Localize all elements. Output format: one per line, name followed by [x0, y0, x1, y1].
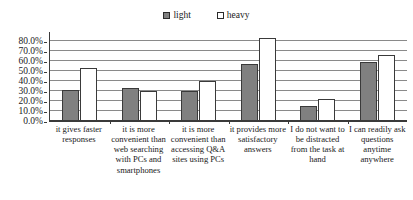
bar-light	[181, 91, 198, 121]
legend-item-light: light	[163, 11, 190, 21]
y-axis-tick	[44, 102, 47, 103]
bar-group	[50, 32, 110, 121]
y-axis-tick-label: 30.0%	[18, 87, 43, 97]
bar-light	[62, 90, 79, 122]
plot-area	[49, 32, 407, 122]
legend-label-heavy: heavy	[227, 11, 250, 21]
y-axis-tick	[44, 92, 47, 93]
bar-group	[288, 32, 348, 121]
bar-heavy	[140, 91, 157, 121]
y-axis-tick-label: 70.0%	[18, 47, 43, 57]
x-axis-labels: it gives faster responsesit is more conv…	[49, 124, 407, 175]
y-axis-tick	[44, 62, 47, 63]
y-axis-tick	[44, 112, 47, 113]
y-axis-tick	[44, 52, 47, 53]
bar-heavy	[318, 99, 335, 122]
bar-heavy	[259, 38, 276, 122]
y-axis-tick-label: 0.0%	[23, 117, 43, 127]
x-axis-category-label: it is more convenient than web searching…	[109, 124, 169, 175]
y-axis-tick	[44, 42, 47, 43]
bar-light	[241, 64, 258, 122]
bar-group	[169, 32, 229, 121]
y-axis-tick	[44, 122, 47, 123]
y-axis-tick	[44, 72, 47, 73]
y-axis-tick-label: 40.0%	[18, 77, 43, 87]
x-axis-category-label: I can readily ask questions anytime anyw…	[347, 124, 407, 175]
y-axis-tick-label: 60.0%	[18, 57, 43, 67]
bar-group	[348, 32, 408, 121]
filled-square-icon	[163, 12, 170, 19]
bar-group	[110, 32, 170, 121]
bar-light	[300, 106, 317, 121]
y-axis-tick-label: 10.0%	[18, 107, 43, 117]
bar-groups	[50, 32, 407, 121]
legend-label-light: light	[173, 11, 190, 21]
bar-light	[122, 88, 139, 121]
bar-heavy	[199, 81, 216, 121]
x-axis-category-label: it provides more satisfactory answers	[228, 124, 288, 175]
open-square-icon	[217, 12, 224, 19]
chart-legend: light heavy	[0, 11, 413, 21]
bar-heavy	[80, 68, 97, 121]
x-axis-category-label: it gives faster responses	[49, 124, 109, 175]
y-axis-tick-label: 20.0%	[18, 97, 43, 107]
y-axis: 0.0%10.0%20.0%30.0%40.0%50.0%60.0%70.0%8…	[0, 32, 47, 122]
x-axis-category-label: it is more convenient than accessing Q&A…	[168, 124, 228, 175]
y-axis-tick-label: 80.0%	[18, 37, 43, 47]
y-axis-tick-label: 50.0%	[18, 67, 43, 77]
bar-chart: light heavy 0.0%10.0%20.0%30.0%40.0%50.0…	[0, 0, 413, 200]
bar-heavy	[378, 55, 395, 122]
x-axis-category-label: I do not want to be distracted from the …	[288, 124, 348, 175]
legend-item-heavy: heavy	[217, 11, 250, 21]
bar-light	[360, 62, 377, 121]
y-axis-tick	[44, 82, 47, 83]
bar-group	[229, 32, 289, 121]
